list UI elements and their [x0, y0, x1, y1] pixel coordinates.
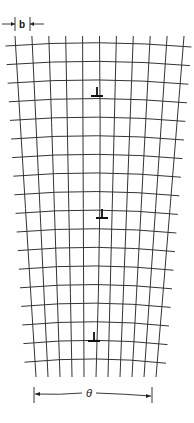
vertical-lattice-line	[15, 36, 36, 377]
burgers-vector-dimension: b	[2, 17, 44, 31]
vertical-lattice-line	[49, 36, 60, 377]
vertical-lattice-line	[83, 36, 84, 377]
b-arrowhead-left	[11, 22, 15, 26]
lattice-grid	[6, 36, 192, 377]
theta-arrow-right	[96, 393, 151, 396]
burgers-label: b	[19, 19, 25, 30]
edge-dislocation-icon	[91, 87, 103, 96]
horizontal-lattice-line	[6, 43, 192, 47]
vertical-lattice-line	[108, 36, 116, 377]
b-arrowhead-right	[30, 22, 34, 26]
angle-dimension: θ	[34, 387, 152, 403]
horizontal-lattice-line	[22, 322, 169, 326]
vertical-lattice-line	[66, 36, 72, 377]
horizontal-lattice-line	[18, 247, 175, 251]
vertical-lattice-line	[32, 36, 48, 377]
angle-label: θ	[86, 387, 92, 399]
vertical-lattice-line	[156, 36, 184, 377]
horizontal-lattice-line	[8, 80, 189, 84]
horizontal-lattice-line	[19, 266, 174, 270]
theta-arrow-left	[35, 393, 82, 394]
horizontal-lattice-line	[7, 61, 190, 65]
edge-dislocation-icon	[88, 332, 100, 341]
horizontal-lattice-line	[21, 303, 170, 307]
horizontal-lattice-line	[20, 285, 172, 289]
vertical-lattice-line	[120, 36, 133, 377]
theta-arrowhead-right	[146, 394, 151, 398]
tilt-boundary-diagram: b θ	[0, 0, 194, 423]
theta-arrowhead-left	[35, 392, 40, 396]
